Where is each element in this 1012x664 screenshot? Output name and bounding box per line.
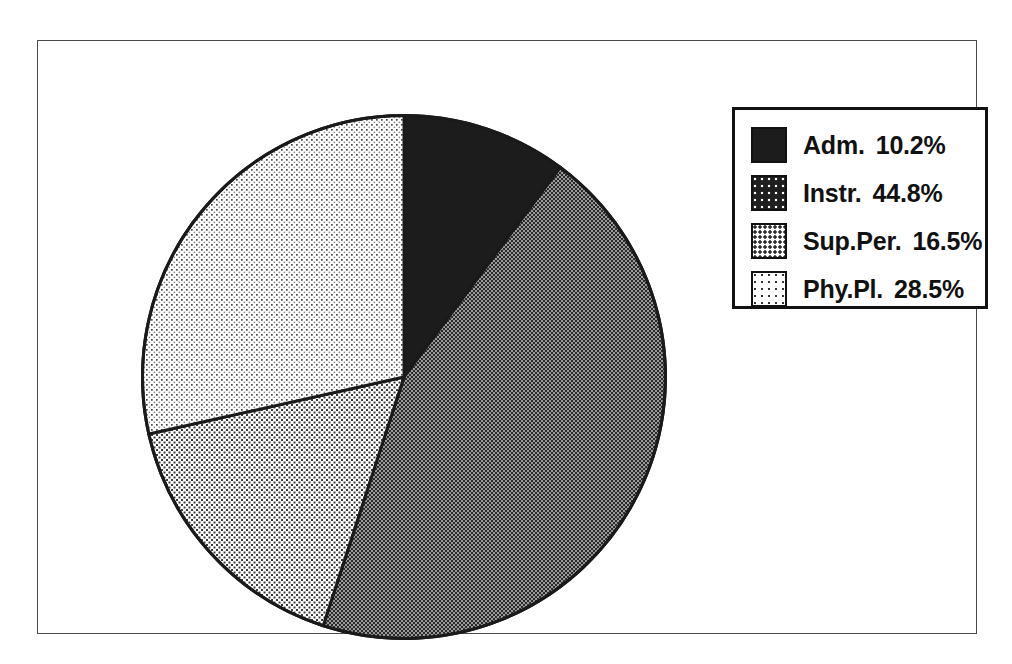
legend-swatch-instr [751, 175, 787, 211]
legend-label-instr: Instr. [803, 181, 862, 206]
legend-label-phy-pl: Phy.Pl. [803, 277, 883, 302]
legend-item-instr[interactable]: Instr. 44.8% [751, 171, 985, 215]
figure-frame: Adm. 10.2% Instr. 44.8% Sup.Per. 16.5% P… [37, 40, 977, 634]
legend-swatch-sup-per [751, 223, 787, 259]
legend-value-instr: 44.8% [873, 181, 943, 206]
chart-legend: Adm. 10.2% Instr. 44.8% Sup.Per. 16.5% P… [732, 107, 988, 309]
legend-value-sup-per: 16.5% [912, 229, 982, 254]
legend-value-phy-pl: 28.5% [894, 277, 964, 302]
legend-swatch-adm [751, 127, 787, 163]
legend-value-adm: 10.2% [876, 133, 946, 158]
legend-label-adm: Adm. [803, 133, 865, 158]
legend-label-sup-per: Sup.Per. [803, 229, 901, 254]
legend-swatch-phy-pl [751, 271, 787, 307]
pie-chart-svg [141, 114, 667, 640]
pie-slice-group [143, 116, 666, 639]
legend-item-sup-per[interactable]: Sup.Per. 16.5% [751, 219, 985, 263]
legend-item-phy-pl[interactable]: Phy.Pl. 28.5% [751, 267, 985, 311]
pie-slice-phy-pl[interactable] [143, 116, 404, 435]
legend-item-adm[interactable]: Adm. 10.2% [751, 123, 985, 167]
pie-chart [141, 114, 667, 640]
